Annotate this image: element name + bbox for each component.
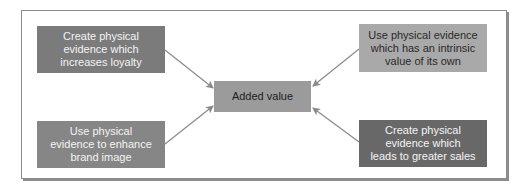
node-text-line: increases loyalty <box>60 56 141 69</box>
node-added-value: Added value <box>214 81 311 112</box>
node-text-line: which has an intrinsic <box>368 42 477 55</box>
node-increases-loyalty: Create physical evidence which increases… <box>37 26 165 73</box>
node-text-line: brand image <box>50 151 152 164</box>
arrow-bottom-right-to-center <box>313 108 359 142</box>
node-intrinsic-value: Use physical evidence which has an intri… <box>359 24 487 72</box>
arrow-top-right-to-center <box>313 49 359 86</box>
arrow-top-left-to-center <box>165 50 213 88</box>
node-text-line: leads to greater sales <box>370 150 475 163</box>
node-text-line: Create physical <box>370 124 475 137</box>
node-text-line: value of its own <box>368 55 477 68</box>
node-text-line: Create physical <box>60 30 141 43</box>
node-text-line: Use physical <box>50 125 152 138</box>
node-text-line: Use physical evidence <box>368 29 477 42</box>
node-enhance-brand-image: Use physical evidence to enhance brand i… <box>37 121 165 168</box>
arrow-bottom-left-to-center <box>165 106 213 144</box>
node-text-line: evidence which <box>370 137 475 150</box>
node-text-line: evidence which <box>60 43 141 56</box>
node-text-line: evidence to enhance <box>50 138 152 151</box>
center-label: Added value <box>232 90 293 103</box>
node-greater-sales: Create physical evidence which leads to … <box>359 120 487 167</box>
